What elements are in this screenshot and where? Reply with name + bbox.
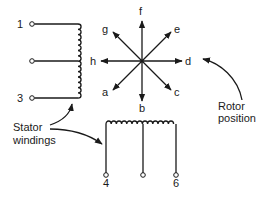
terminal-3-icon: [30, 96, 35, 101]
rotor-label-line1: Rotor: [218, 100, 245, 112]
position-label-d: d: [185, 55, 191, 67]
rotor-callout-arrow-icon: [203, 59, 242, 100]
arrow-e-icon: [142, 32, 171, 61]
arrow-g-icon: [113, 32, 142, 61]
position-label-c: c: [174, 86, 180, 98]
rotor-label-line2: position: [218, 112, 256, 124]
horizontal-stator-winding: 4 6: [103, 121, 179, 189]
position-label-b: b: [139, 102, 145, 114]
terminal-3-label: 3: [17, 92, 23, 104]
terminal-4-label: 4: [103, 177, 109, 189]
stepper-motor-diagram: 1 3 f b d h e g c a Rotor posit: [0, 0, 269, 200]
vertical-stator-winding: 1 3: [17, 18, 81, 104]
horizontal-coil-icon: [106, 121, 174, 124]
arrow-c-icon: [142, 61, 171, 90]
terminal-1-label: 1: [17, 18, 23, 30]
rotor-center-dot: [140, 59, 143, 62]
terminal-1-icon: [30, 22, 35, 27]
position-label-a: a: [102, 86, 109, 98]
rotor-position-star: f b d h e g c a: [90, 5, 191, 114]
diagram-svg: 1 3 f b d h e g c a Rotor posit: [0, 0, 269, 200]
terminal-5-icon: [141, 173, 146, 178]
stator-label-line1: Stator: [13, 121, 43, 133]
terminal-2-icon: [30, 59, 35, 64]
position-label-g: g: [102, 23, 108, 35]
position-label-e: e: [174, 23, 180, 35]
vertical-coil-icon: [78, 24, 81, 98]
position-label-h: h: [90, 55, 96, 67]
terminal-6-label: 6: [173, 177, 179, 189]
stator-callout-arrow-right-icon: [50, 129, 102, 144]
position-label-f: f: [139, 5, 143, 17]
rotor-position-callout: Rotor position: [203, 59, 256, 124]
stator-callout-arrow-up-icon: [50, 104, 72, 125]
stator-label-line2: windings: [12, 134, 56, 146]
stator-windings-callout: Stator windings: [12, 104, 102, 146]
arrow-a-icon: [113, 61, 142, 90]
